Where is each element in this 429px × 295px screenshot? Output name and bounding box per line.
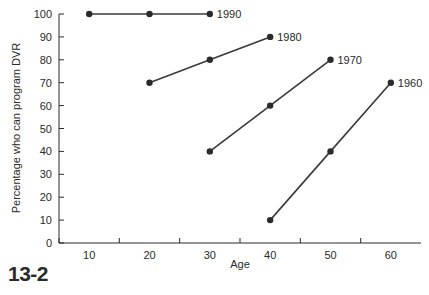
data-point — [327, 148, 333, 154]
y-tick-label: 10 — [40, 214, 52, 226]
figure-caption: 13-2 — [8, 262, 48, 286]
y-tick-label: 0 — [46, 237, 52, 249]
data-point — [146, 80, 152, 86]
data-point — [207, 148, 213, 154]
series-group: 1990198019701960 — [86, 8, 422, 223]
y-tick-label: 30 — [40, 168, 52, 180]
line-chart: 0102030405060708090100 102030405060 1990… — [0, 0, 429, 295]
y-tick-label: 50 — [40, 123, 52, 135]
y-axis-title: Percentage who can program DVR — [10, 43, 22, 214]
data-point — [267, 102, 273, 108]
figure-container: 0102030405060708090100 102030405060 1990… — [0, 0, 429, 295]
y-tick-label: 40 — [40, 145, 52, 157]
x-tick-label: 40 — [264, 249, 276, 261]
series-label-1960: 1960 — [398, 77, 422, 89]
x-tick-label: 30 — [204, 249, 216, 261]
series-label-1970: 1970 — [338, 54, 362, 66]
y-tick-label: 90 — [40, 31, 52, 43]
data-point — [388, 80, 394, 86]
x-tick-label: 20 — [143, 249, 155, 261]
y-tick-label: 20 — [40, 191, 52, 203]
y-tick-label: 100 — [34, 8, 52, 20]
data-point — [86, 11, 92, 17]
x-axis-ticks: 102030405060 — [59, 238, 397, 261]
x-tick-label: 10 — [83, 249, 95, 261]
data-point — [267, 34, 273, 40]
data-point — [267, 217, 273, 223]
x-axis-title: Age — [230, 258, 250, 270]
data-point — [207, 11, 213, 17]
x-tick-label: 50 — [324, 249, 336, 261]
y-tick-label: 70 — [40, 77, 52, 89]
y-tick-label: 80 — [40, 54, 52, 66]
series-label-1980: 1980 — [277, 31, 301, 43]
data-point — [327, 57, 333, 63]
series-label-1990: 1990 — [217, 8, 241, 20]
data-point — [207, 57, 213, 63]
data-point — [146, 11, 152, 17]
y-tick-label: 60 — [40, 100, 52, 112]
x-tick-label: 60 — [385, 249, 397, 261]
